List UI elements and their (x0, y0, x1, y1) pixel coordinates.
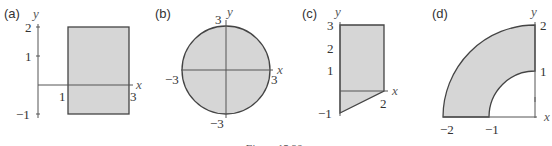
panel-b-label: (b) (155, 6, 171, 21)
panel-a-ytick-neg1: −1 (16, 107, 30, 122)
panel-a-label: (a) (4, 6, 20, 21)
panel-a-region (68, 27, 129, 114)
panel-c-x-var: x (391, 83, 398, 98)
panel-a-ytick-2: 2 (25, 20, 32, 35)
panel-d-ytick-2: 2 (540, 18, 547, 33)
figure-caption: Figure 15.30 (244, 142, 303, 146)
panel-c: (c) y x 3 2 1 −1 2 (302, 4, 398, 121)
panel-c-ytick-3: 3 (327, 18, 334, 33)
panel-c-ytick-neg1: −1 (318, 106, 332, 121)
panel-c-ytick-2: 2 (327, 41, 334, 56)
panel-c-region (340, 25, 384, 113)
panel-a: (a) y x 2 1 −1 1 3 (4, 6, 142, 122)
panel-b-y-var: y (225, 4, 233, 19)
panel-a-ytick-1: 1 (25, 49, 32, 64)
panel-b-xtick-3: 3 (271, 72, 278, 87)
figure-canvas: (a) y x 2 1 −1 1 3 (b) y x 3 −3 −3 3 (c)… (0, 0, 552, 146)
panel-b-xtick-neg3: −3 (165, 72, 179, 87)
panel-d-label: (d) (432, 6, 448, 21)
panel-d: (d) y x 2 1 −2 −1 (432, 4, 550, 137)
panel-a-xtick-3: 3 (130, 89, 137, 104)
panel-b: (b) y x 3 −3 −3 3 (155, 4, 283, 131)
panel-a-xtick-1: 1 (59, 89, 66, 104)
panel-d-xtick-neg1: −1 (485, 122, 499, 137)
panel-c-xtick-2: 2 (380, 96, 387, 111)
panel-d-y-var: y (529, 4, 537, 19)
panel-d-ytick-1: 1 (540, 64, 547, 79)
panel-b-ytick-neg3: −3 (210, 116, 224, 131)
panel-c-y-var: y (333, 4, 341, 19)
panel-d-x-var: x (543, 109, 550, 124)
panel-c-label: (c) (302, 6, 317, 21)
panel-d-xtick-neg2: −2 (440, 122, 454, 137)
panel-c-ytick-1: 1 (327, 63, 334, 78)
panel-b-ytick-3: 3 (215, 12, 222, 27)
panel-d-region (443, 25, 535, 117)
panel-a-y-var: y (31, 6, 39, 21)
